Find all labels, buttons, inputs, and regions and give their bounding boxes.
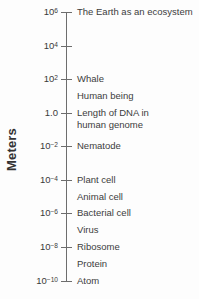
- y-axis-tick-label: 10−10: [0, 275, 58, 287]
- y-axis-tick-label: 1.0: [0, 107, 58, 119]
- scale-item-label: Atom: [77, 275, 99, 287]
- tick-label-mantissa: 10: [40, 141, 51, 151]
- y-axis-tick-label: 106: [0, 6, 58, 18]
- scale-item-label: Ribosome: [77, 241, 120, 253]
- scale-item-label: Human being: [77, 90, 134, 102]
- scale-item-label: Bacterial cell: [77, 207, 131, 219]
- y-axis-tick: [61, 213, 72, 214]
- y-axis-tick: [61, 247, 72, 248]
- tick-label-mantissa: 10: [40, 175, 51, 185]
- y-axis-tick-label: 10−4: [0, 174, 58, 186]
- y-axis-tick-label: 10−6: [0, 207, 58, 219]
- scale-item-label: Plant cell: [77, 174, 116, 186]
- tick-label-mantissa: 10: [44, 74, 55, 84]
- y-axis-tick: [61, 79, 72, 80]
- y-axis-tick-label: 10−8: [0, 241, 58, 253]
- tick-label-mantissa: 1.0: [45, 108, 58, 118]
- y-axis-tick: [61, 12, 72, 13]
- y-axis-tick: [61, 180, 72, 181]
- scale-item-label: Protein: [77, 258, 107, 270]
- tick-label-mantissa: 10: [40, 242, 51, 252]
- y-axis-tick: [61, 46, 72, 47]
- scale-item-label: The Earth as an ecosystem: [77, 6, 193, 18]
- y-axis-tick: [61, 281, 72, 282]
- tick-label-mantissa: 10: [44, 7, 55, 17]
- y-axis-tick-label: 102: [0, 73, 58, 85]
- tick-label-mantissa: 10: [40, 208, 51, 218]
- scale-item-label: Animal cell: [77, 191, 123, 203]
- tick-label-mantissa: 10: [36, 276, 47, 286]
- y-axis-tick: [61, 113, 72, 114]
- scale-item-label: Virus: [77, 224, 98, 236]
- scale-item-label: Whale: [77, 73, 104, 85]
- scale-item-label: Length of DNA in human genome: [77, 107, 149, 130]
- y-axis-tick: [61, 146, 72, 147]
- y-axis-tick-label: 104: [0, 40, 58, 52]
- size-scale-figure: Meters 1061041021.010−210−410−610−810−10…: [0, 0, 199, 299]
- tick-label-mantissa: 10: [44, 41, 55, 51]
- scale-item-label: Nematode: [77, 140, 121, 152]
- y-axis-tick-label: 10−2: [0, 140, 58, 152]
- y-axis-line: [66, 12, 67, 282]
